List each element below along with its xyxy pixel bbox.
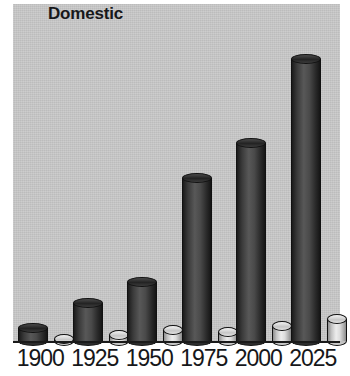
- x-tick-label-1900: 1900: [13, 345, 68, 372]
- bar-secondary-1975: [218, 327, 238, 341]
- bar-cap: [163, 325, 183, 335]
- bar-domestic-1950: [127, 277, 157, 341]
- bar-secondary-2025: [327, 314, 347, 341]
- bar-body: [182, 178, 212, 341]
- x-axis-line: [13, 341, 340, 343]
- bar-secondary-1900: [54, 334, 74, 341]
- bar-domestic-1975: [182, 173, 212, 341]
- bar-cap: [73, 298, 103, 308]
- x-tick-label-2000: 2000: [231, 345, 286, 372]
- bar-body: [291, 59, 321, 341]
- bar-secondary-1950: [163, 325, 183, 341]
- bar-domestic-2025: [291, 54, 321, 341]
- bar-secondary-2000: [272, 321, 292, 341]
- bar-cap: [327, 314, 347, 324]
- bar-cap: [272, 321, 292, 331]
- bar-domestic-2000: [236, 138, 266, 341]
- bar-secondary-1925: [109, 330, 129, 341]
- chart-title: Domestic: [48, 4, 123, 24]
- bar-body: [236, 143, 266, 341]
- bar-cap: [18, 323, 48, 333]
- bar-cap: [182, 173, 212, 183]
- chart-container: Domestic 190019251950197520002025: [0, 0, 350, 376]
- x-tick-label-1925: 1925: [68, 345, 123, 372]
- bar-body: [127, 282, 157, 341]
- bar-cap: [109, 330, 129, 340]
- bar-domestic-1900: [18, 323, 48, 341]
- bar-body: [73, 303, 103, 341]
- bar-domestic-1925: [73, 298, 103, 341]
- x-tick-label-2025: 2025: [286, 345, 341, 372]
- x-tick-label-1975: 1975: [177, 345, 232, 372]
- x-axis-tick-labels: 190019251950197520002025: [0, 345, 350, 375]
- x-tick-label-1950: 1950: [122, 345, 177, 372]
